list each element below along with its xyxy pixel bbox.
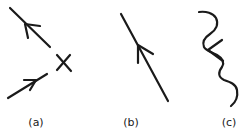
upper-line-arrow-icon: [10, 8, 50, 47]
panel-b-label: (b): [123, 116, 139, 129]
wavy-line-arrow-icon: [199, 12, 237, 106]
lower-line-arrow-icon: [8, 74, 47, 98]
panel-b-drawing: [121, 14, 168, 101]
panel-c-drawing: [199, 12, 237, 106]
panel-c-label: (c): [222, 116, 237, 129]
straight-line-arrow-icon: [121, 14, 168, 101]
panel-a-drawing: [8, 8, 71, 98]
panel-a-label: (a): [28, 116, 43, 129]
x-cross-icon: [57, 55, 71, 71]
